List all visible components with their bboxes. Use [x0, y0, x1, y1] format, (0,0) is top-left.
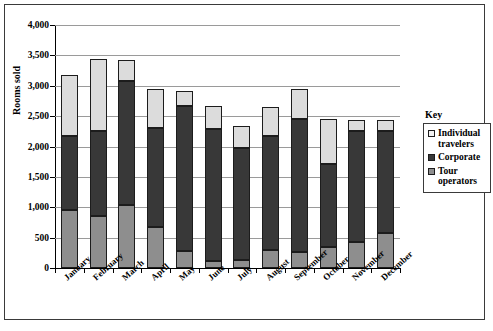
bar-segment-individual-travelers[interactable] [118, 60, 135, 81]
y-axis-tick-label: 1,000 [28, 202, 49, 212]
bar-segment-corporate[interactable] [291, 119, 308, 251]
bar-column[interactable] [291, 25, 308, 268]
bar-column[interactable] [118, 25, 135, 268]
y-axis-tick-label: 4,000 [28, 20, 49, 30]
bar-column[interactable] [377, 25, 394, 268]
bar-segment-individual-travelers[interactable] [205, 106, 222, 129]
bar-column[interactable] [262, 25, 279, 268]
legend-label: Tour operators [438, 166, 486, 187]
bar-segment-tour-operators[interactable] [61, 210, 78, 268]
bar-column[interactable] [176, 25, 193, 268]
bar-segment-corporate[interactable] [90, 131, 107, 217]
bar-segment-individual-travelers[interactable] [147, 89, 164, 128]
bar-segment-corporate[interactable] [233, 148, 250, 260]
legend-item-individual-travelers[interactable]: Individual travelers [428, 128, 486, 149]
legend-item-corporate[interactable]: Corporate [428, 152, 486, 163]
bar-segment-corporate[interactable] [320, 164, 337, 247]
y-axis-tick-label: 2,000 [28, 142, 49, 152]
x-axis-tick-mark [228, 268, 229, 273]
bar-column[interactable] [61, 25, 78, 268]
bar-segment-corporate[interactable] [348, 131, 365, 242]
chart-frame: Rooms sold 4,0003,5003,0002,5002,0001,50… [4, 4, 485, 320]
x-axis-tick-mark [55, 268, 56, 273]
plot-area [55, 25, 400, 268]
y-axis-tick-label: 2,500 [28, 111, 49, 121]
y-axis-tick-label: 3,500 [28, 50, 49, 60]
bar-segment-individual-travelers[interactable] [348, 120, 365, 132]
x-axis-tick-mark [314, 268, 315, 273]
bar-segment-corporate[interactable] [147, 128, 164, 227]
y-axis-tick-label: 500 [35, 233, 49, 243]
legend-swatch-tour-operators-icon [428, 168, 435, 175]
bar-segment-individual-travelers[interactable] [320, 119, 337, 164]
bar-segment-individual-travelers[interactable] [61, 75, 78, 136]
bar-segment-corporate[interactable] [377, 131, 394, 232]
legend-swatch-individual-travelers-icon [428, 130, 435, 137]
bar-segment-individual-travelers[interactable] [90, 59, 107, 131]
y-axis-tick-label: 0 [44, 263, 49, 273]
bar-segment-individual-travelers[interactable] [176, 91, 193, 106]
legend-title: Key [425, 109, 442, 120]
bar-segment-corporate[interactable] [262, 136, 279, 251]
x-axis-tick-mark [199, 268, 200, 273]
bar-segment-individual-travelers[interactable] [377, 120, 394, 132]
x-axis-tick-mark [256, 268, 257, 273]
legend-box: Individual travelersCorporateTour operat… [423, 123, 491, 193]
legend-item-tour-operators[interactable]: Tour operators [428, 166, 486, 187]
bar-segment-individual-travelers[interactable] [233, 126, 250, 148]
bar-segment-corporate[interactable] [205, 129, 222, 260]
bar-column[interactable] [233, 25, 250, 268]
x-axis-tick-mark [84, 268, 85, 273]
legend-label: Corporate [438, 152, 480, 163]
bar-column[interactable] [90, 25, 107, 268]
bar-column[interactable] [320, 25, 337, 268]
bar-column[interactable] [348, 25, 365, 268]
bar-segment-corporate[interactable] [61, 136, 78, 210]
bar-segment-individual-travelers[interactable] [291, 89, 308, 119]
y-axis-tick-label: 1,500 [28, 172, 49, 182]
y-axis-tick-labels: 4,0003,5003,0002,5002,0001,5001,0005000 [5, 5, 49, 331]
legend-swatch-corporate-icon [428, 154, 435, 161]
bar-column[interactable] [147, 25, 164, 268]
bar-segment-corporate[interactable] [118, 81, 135, 205]
bar-segment-corporate[interactable] [176, 106, 193, 251]
legend-label: Individual travelers [438, 128, 486, 149]
bar-column[interactable] [205, 25, 222, 268]
y-axis-tick-label: 3,000 [28, 81, 49, 91]
bar-segment-individual-travelers[interactable] [262, 107, 279, 136]
